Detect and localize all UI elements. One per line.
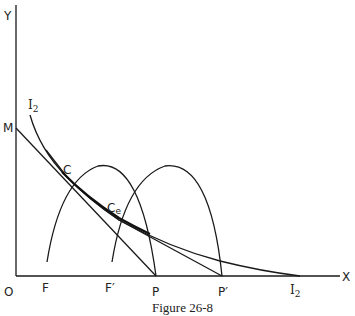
economics-diagram: Y X O M C Ce F F′ P P′ I2 I2 Figure 26-8 (0, 0, 355, 316)
y-axis-label: Y (3, 9, 12, 23)
budget-line-cp-prime (46, 150, 222, 276)
point-m-label: M (3, 121, 13, 135)
indifference-curve-i2 (30, 115, 300, 276)
indifference-label-bottom: I2 (290, 283, 300, 299)
point-f-prime-label: F′ (105, 281, 115, 295)
budget-line-mp (16, 128, 156, 276)
point-ce-label: Ce (107, 201, 121, 216)
point-p-prime-label: P′ (218, 285, 228, 299)
point-f-label: F (42, 281, 49, 295)
indifference-label-top: I2 (28, 98, 38, 114)
point-c-label: C (63, 163, 71, 177)
origin-label: O (4, 285, 13, 299)
x-axis-label: X (342, 270, 350, 284)
point-p-label: P (152, 285, 159, 299)
tangency-segment (62, 172, 150, 234)
figure-caption: Figure 26-8 (152, 300, 213, 315)
